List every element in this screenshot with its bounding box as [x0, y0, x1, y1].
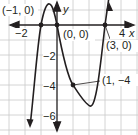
cubic-graph: (−1, 0) (0, 0) (3, 0) (1, −4 −2 4 x y −2… — [0, 0, 138, 135]
label-point-neg1-0: (−1, 0) — [2, 4, 34, 16]
tick-x-4: 4 — [119, 27, 125, 39]
curve-arrow-down-icon — [27, 119, 34, 128]
label-point-3-0: (3, 0) — [106, 39, 132, 51]
tick-y-neg2: −2 — [43, 50, 56, 62]
grid — [0, 0, 138, 135]
y-axis-label: y — [62, 3, 70, 15]
axes — [10, 2, 134, 131]
tick-x-neg2: −2 — [15, 27, 28, 39]
label-point-1-neg4: (1, −4 — [102, 74, 130, 86]
tick-y-neg4: −4 — [43, 80, 56, 92]
x-axis-label: x — [128, 27, 135, 39]
leader-1-neg4 — [73, 81, 100, 85]
label-point-0-0: (0, 0) — [63, 28, 89, 40]
tick-y-neg6: −6 — [43, 110, 56, 122]
y-axis-arrow-up-icon — [54, 2, 61, 11]
graph-canvas: (−1, 0) (0, 0) (3, 0) (1, −4 −2 4 x y −2… — [0, 0, 138, 135]
point-neg1-0 — [39, 23, 44, 28]
leader-3-0 — [105, 25, 110, 39]
point-0-0 — [55, 23, 60, 28]
